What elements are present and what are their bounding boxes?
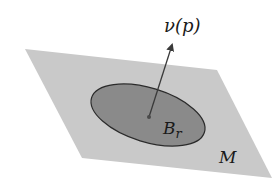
ball-label-main: B <box>162 118 176 138</box>
normal-label: ν(p) <box>164 15 201 36</box>
manifold-label: M <box>218 147 237 167</box>
point-p <box>147 115 151 119</box>
ball-label-subscript: r <box>176 126 183 141</box>
diagram-figure: ν(p) Br M <box>0 0 275 180</box>
